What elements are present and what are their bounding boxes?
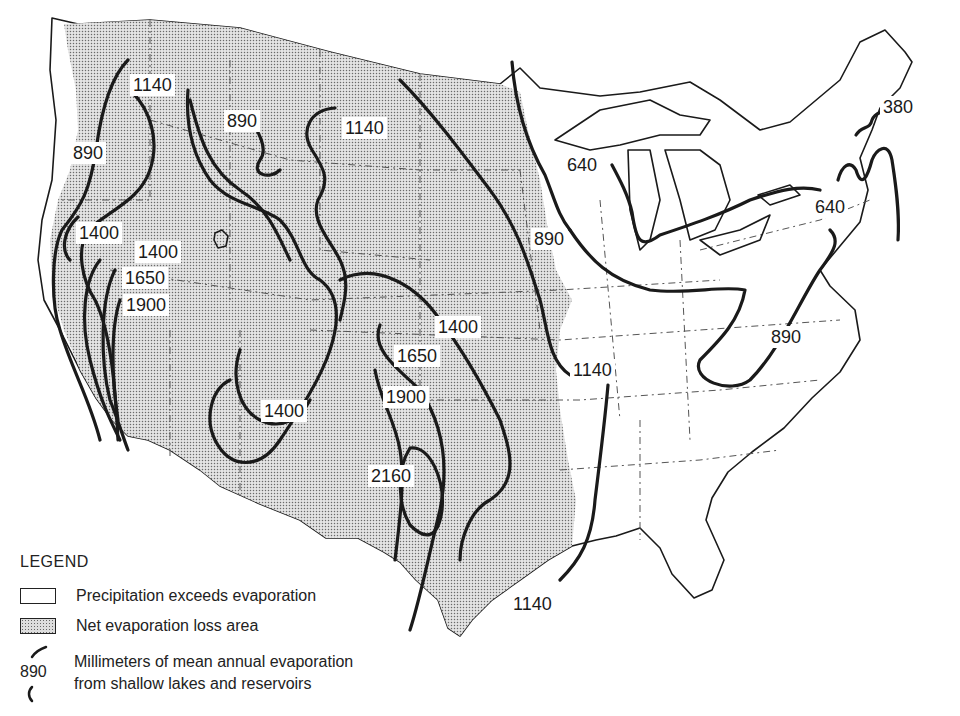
- evaporation-map: [0, 0, 960, 716]
- contour-label: 890: [768, 326, 804, 348]
- contour-label: 1400: [435, 316, 481, 338]
- legend-label: Net evaporation loss area: [76, 617, 258, 635]
- contour-label: 1900: [123, 294, 169, 316]
- contour-label: 1400: [135, 241, 181, 263]
- contour-label: 2160: [368, 465, 414, 487]
- white-swatch-icon: [20, 588, 56, 604]
- legend-label-line2: from shallow lakes and reservoirs: [74, 675, 311, 692]
- legend: LEGEND Precipitation exceeds evaporation…: [20, 553, 89, 571]
- contour-label: 1400: [76, 222, 122, 244]
- contour-label: 890: [531, 228, 567, 250]
- legend-title: LEGEND: [20, 553, 89, 571]
- contour-label: 1650: [122, 267, 168, 289]
- contour-label: 1140: [570, 359, 615, 381]
- legend-label: Precipitation exceeds evaporation: [76, 587, 316, 605]
- great-lakes: [555, 100, 800, 255]
- legend-label-line1: Millimeters of mean annual evaporation: [74, 653, 353, 670]
- dotted-swatch-icon: [20, 618, 56, 634]
- net-evaporation-loss-area: [50, 20, 576, 636]
- contour-label: 640: [812, 196, 848, 218]
- contour-label: 640: [564, 154, 600, 176]
- contour-label: 1140: [342, 117, 387, 139]
- contour-label: 380: [880, 96, 916, 118]
- legend-label: Millimeters of mean annual evaporation f…: [74, 651, 353, 695]
- legend-item-precipitation: Precipitation exceeds evaporation: [20, 587, 316, 605]
- contour-label: 890: [70, 142, 106, 164]
- contour-label: 1650: [394, 345, 440, 367]
- contour-label: 1400: [261, 400, 307, 422]
- legend-item-contour: 890 Millimeters of mean annual evaporati…: [20, 643, 353, 703]
- contour-label: 890: [224, 110, 260, 132]
- contour-label: 1140: [510, 593, 555, 615]
- contour-sample-value: 890: [20, 663, 47, 681]
- legend-item-net-loss: Net evaporation loss area: [20, 617, 258, 635]
- contour-label: 1140: [130, 74, 175, 96]
- contour-line-icon: 890: [20, 643, 54, 703]
- contour-label: 1900: [383, 386, 429, 408]
